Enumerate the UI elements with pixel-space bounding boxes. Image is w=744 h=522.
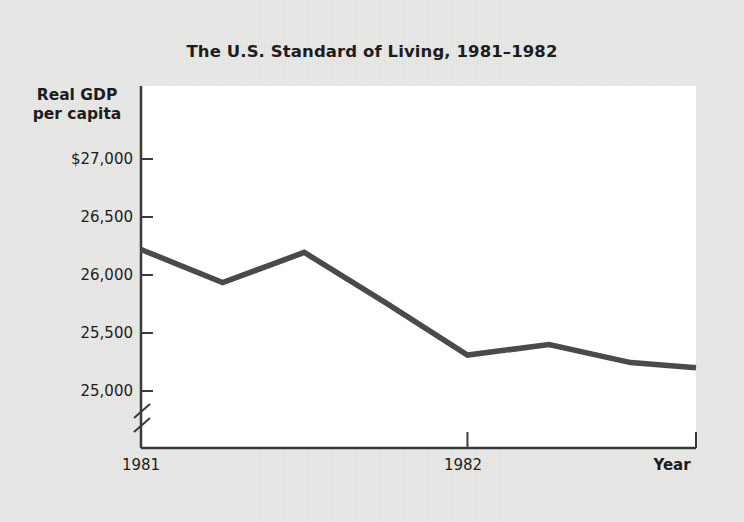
figure-page: The U.S. Standard of Living, 1981–1982 R…: [0, 0, 744, 522]
chart-plot-area: [0, 0, 744, 522]
plot-background: [141, 86, 696, 448]
